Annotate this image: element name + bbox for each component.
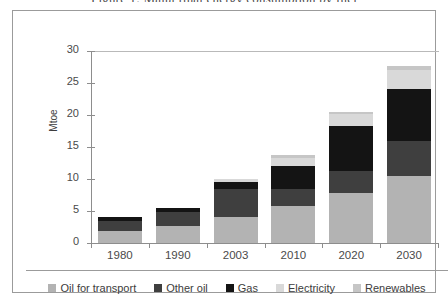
legend-swatch-icon (353, 284, 361, 292)
x-tick-label: 2020 (321, 249, 381, 261)
x-tick-label: 2010 (263, 249, 323, 261)
bar-stack[interactable] (271, 155, 315, 243)
plot-area (91, 51, 438, 243)
bar-segment-oil-for-transport[interactable] (98, 231, 142, 243)
x-tick-mark (322, 243, 323, 248)
legend-swatch-icon (276, 284, 284, 292)
x-tick-mark (207, 243, 208, 248)
x-tick-mark (380, 243, 381, 248)
bar-segment-electricity[interactable] (329, 114, 373, 126)
y-tick-label: 0 (19, 235, 79, 247)
bar-segment-gas[interactable] (271, 166, 315, 189)
x-tick-label: 1980 (90, 249, 150, 261)
chart-legend: Oil for transportOther oilGasElectricity… (26, 270, 448, 304)
x-tick-mark (149, 243, 150, 248)
bar-segment-other-oil[interactable] (387, 141, 431, 176)
bar-stack[interactable] (329, 112, 373, 243)
legend-swatch-icon (226, 284, 234, 292)
bar-segment-oil-for-transport[interactable] (271, 206, 315, 243)
bar-segment-other-oil[interactable] (271, 189, 315, 206)
legend-swatch-icon (48, 284, 56, 292)
x-tick-mark (265, 243, 266, 248)
y-tick-label: 15 (19, 139, 79, 151)
bar-segment-electricity[interactable] (271, 158, 315, 166)
x-tick-mark (91, 243, 92, 248)
legend-item-gas[interactable]: Gas (226, 282, 258, 294)
bar-stack[interactable] (387, 66, 431, 243)
x-tick-label: 2003 (206, 249, 266, 261)
bar-segment-gas[interactable] (329, 126, 373, 171)
bar-segment-other-oil[interactable] (214, 189, 258, 218)
y-tick-label: 20 (19, 107, 79, 119)
chart-frame: Mtoe 051015202530 1980199020032010202020… (12, 10, 436, 293)
y-tick-label: 10 (19, 171, 79, 183)
legend-item-oil-for-transport[interactable]: Oil for transport (48, 282, 136, 294)
bar-segment-oil-for-transport[interactable] (329, 193, 373, 243)
y-tick-label: 30 (19, 43, 79, 55)
legend-item-other-oil[interactable]: Other oil (154, 282, 208, 294)
bar-segment-other-oil[interactable] (329, 171, 373, 193)
bar-segment-oil-for-transport[interactable] (214, 217, 258, 243)
bar-segment-gas[interactable] (387, 89, 431, 140)
bar-segment-other-oil[interactable] (98, 221, 142, 231)
bar-segment-oil-for-transport[interactable] (387, 176, 431, 243)
bar-stack[interactable] (156, 208, 200, 243)
bar-segment-other-oil[interactable] (156, 212, 200, 226)
legend-label: Renewables (365, 282, 426, 294)
bar-stack[interactable] (98, 217, 142, 243)
legend-swatch-icon (154, 284, 162, 292)
bar-segment-electricity[interactable] (387, 70, 431, 89)
legend-label: Electricity (288, 282, 335, 294)
page-title: Figure 1: Malta final energy consumption… (0, 0, 448, 2)
bar-stack[interactable] (214, 179, 258, 243)
legend-item-renewables[interactable]: Renewables (353, 282, 426, 294)
y-tick-label: 5 (19, 203, 79, 215)
y-tick-label: 25 (19, 75, 79, 87)
x-tick-label: 2030 (379, 249, 439, 261)
x-tick-label: 1990 (148, 249, 208, 261)
x-tick-mark (438, 243, 439, 248)
legend-label: Gas (238, 282, 258, 294)
legend-label: Oil for transport (60, 282, 136, 294)
legend-label: Other oil (166, 282, 208, 294)
bar-segment-oil-for-transport[interactable] (156, 226, 200, 243)
legend-item-electricity[interactable]: Electricity (276, 282, 335, 294)
